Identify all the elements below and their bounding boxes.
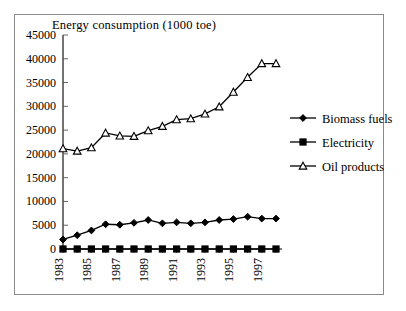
series-marker-0 xyxy=(102,221,109,228)
y-tick-label: 40000 xyxy=(26,52,56,66)
series-marker-0 xyxy=(244,213,251,220)
series-marker-0 xyxy=(74,232,81,239)
y-tick-label: 30000 xyxy=(26,99,56,113)
x-tick-label: 1989 xyxy=(137,258,151,282)
chart-figure: Energy consumption (1000 toe) 0500010000… xyxy=(0,0,406,311)
series-marker-1 xyxy=(145,246,151,252)
series-marker-1 xyxy=(103,246,109,252)
series-marker-2 xyxy=(201,110,209,117)
series-marker-0 xyxy=(216,217,223,224)
chart-plot-area: 0500010000150002000025000300003500040000… xyxy=(0,0,406,311)
series-marker-1 xyxy=(60,246,66,252)
series-marker-1 xyxy=(174,246,180,252)
series-marker-0 xyxy=(131,219,138,226)
series-marker-1 xyxy=(74,246,80,252)
series-marker-0 xyxy=(173,219,180,226)
series-marker-1 xyxy=(245,246,251,252)
legend-marker-1 xyxy=(300,139,306,145)
series-marker-1 xyxy=(159,246,165,252)
series-marker-1 xyxy=(202,246,208,252)
legend-label-0: Biomass fuels xyxy=(322,112,393,126)
series-marker-1 xyxy=(188,246,194,252)
series-marker-0 xyxy=(116,221,123,228)
y-tick-label: 0 xyxy=(50,242,56,256)
x-tick-label: 1993 xyxy=(194,258,208,282)
series-marker-0 xyxy=(230,216,237,223)
y-tick-label: 5000 xyxy=(32,218,56,232)
x-tick-label: 1997 xyxy=(251,258,265,282)
y-tick-label: 25000 xyxy=(26,123,56,137)
series-marker-0 xyxy=(88,227,95,234)
series-marker-1 xyxy=(273,246,279,252)
legend-label-2: Oil products xyxy=(322,160,384,174)
series-marker-0 xyxy=(258,215,265,222)
series-marker-1 xyxy=(117,246,123,252)
legend-marker-0 xyxy=(300,115,307,122)
x-tick-label: 1987 xyxy=(109,258,123,282)
x-tick-label: 1995 xyxy=(222,258,236,282)
series-marker-2 xyxy=(59,145,67,152)
series-marker-0 xyxy=(145,217,152,224)
x-tick-label: 1985 xyxy=(80,258,94,282)
y-tick-label: 45000 xyxy=(26,28,56,42)
series-marker-0 xyxy=(60,236,67,243)
x-tick-label: 1991 xyxy=(166,258,180,282)
series-line-2 xyxy=(63,64,276,152)
y-tick-label: 15000 xyxy=(26,171,56,185)
series-marker-1 xyxy=(259,246,265,252)
series-marker-1 xyxy=(216,246,222,252)
series-marker-1 xyxy=(230,246,236,252)
series-marker-0 xyxy=(202,219,209,226)
y-tick-label: 35000 xyxy=(26,76,56,90)
series-marker-2 xyxy=(102,129,110,136)
series-line-0 xyxy=(63,217,276,240)
series-marker-0 xyxy=(159,220,166,227)
legend-label-1: Electricity xyxy=(322,136,375,150)
series-marker-2 xyxy=(159,123,167,130)
x-tick-label: 1983 xyxy=(52,258,66,282)
series-marker-0 xyxy=(273,215,280,222)
y-tick-label: 20000 xyxy=(26,147,56,161)
series-marker-1 xyxy=(131,246,137,252)
series-marker-1 xyxy=(88,246,94,252)
series-marker-0 xyxy=(187,220,194,227)
y-tick-label: 10000 xyxy=(26,194,56,208)
